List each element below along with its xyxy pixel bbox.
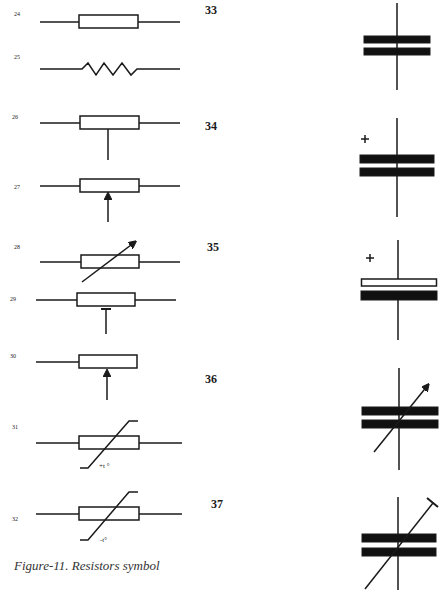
preset-resistor-icon [36, 293, 176, 334]
fixed-capacitor-icon [364, 3, 430, 90]
polarized-capacitor-icon [360, 118, 434, 217]
variable-resistor-icon [40, 242, 180, 282]
thermistor-ptc-icon [36, 421, 182, 468]
trimmer-capacitor-icon [362, 497, 438, 590]
fixed-resistor-zigzag-icon [40, 63, 180, 75]
electrolytic-capacitor-icon [361, 240, 437, 340]
tapped-resistor-icon [40, 116, 180, 160]
thermistor-ntc-icon [36, 492, 182, 540]
fixed-resistor-box-icon [40, 15, 180, 28]
potentiometer-arrow-icon [40, 179, 180, 222]
variable-capacitor-icon [362, 368, 438, 470]
symbols-canvas [0, 0, 446, 594]
potentiometer-wiper-icon [36, 355, 137, 400]
